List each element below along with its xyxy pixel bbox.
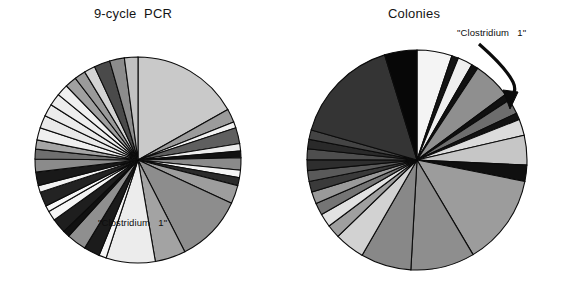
figure-root: 9-cycle PCR "Clostridium 1" Colonies "Cl…: [0, 0, 563, 287]
panel-left-9cycle-pcr: 9-cycle PCR "Clostridium 1": [0, 0, 282, 287]
right-clostridium-1-label: "Clostridium 1": [457, 27, 526, 38]
curved-arrow-icon: [461, 38, 561, 118]
left-clostridium-1-label: "Clostridium 1": [98, 217, 167, 228]
panel-right-colonies: Colonies "Clostridium 1": [281, 0, 563, 287]
pie-chart-9cycle-pcr: [0, 0, 282, 287]
